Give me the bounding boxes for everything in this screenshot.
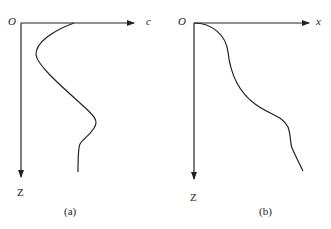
panel-b [194, 23, 309, 179]
diagram-canvas [0, 0, 331, 229]
panel-a-profile-curve [36, 23, 96, 172]
panel-a [21, 23, 134, 177]
panel-b-origin-label: O [178, 16, 186, 27]
panel-b-caption: (b) [259, 206, 272, 217]
panel-b-displacement-curve [194, 23, 303, 171]
panel-b-x-axis-label: x [316, 16, 321, 27]
panel-b-z-axis-label: Z [190, 192, 197, 203]
panel-a-caption: (a) [64, 206, 76, 217]
panel-a-c-axis-label: c [146, 16, 151, 27]
panel-a-origin-label: O [8, 16, 16, 27]
panel-a-z-axis-label: Z [17, 187, 24, 198]
